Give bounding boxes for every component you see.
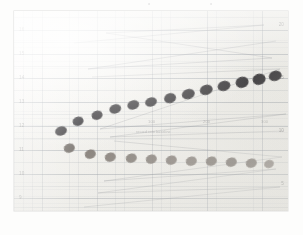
data-point [126, 99, 140, 111]
y-axis-left-tick: 10 [19, 171, 24, 176]
y-axis-left-tick: 14 [19, 75, 24, 80]
figure-canvas: o o 16 15 1 [0, 0, 303, 235]
gridline [14, 126, 288, 127]
data-point [263, 159, 275, 170]
data-point [104, 151, 117, 162]
gridline [14, 138, 288, 139]
gridline-vertical [152, 11, 153, 211]
x-axis-tick: 200 [203, 119, 210, 124]
data-point [84, 148, 97, 159]
y-axis-right-tick: 10 [279, 128, 284, 133]
y-axis-left-tick: 15 [19, 51, 24, 56]
gridline [14, 66, 288, 67]
data-point [144, 96, 158, 108]
y-axis-left-tick: 16 [19, 27, 24, 32]
gridline [14, 42, 288, 43]
data-point [199, 83, 214, 96]
y-axis-left-tick: 12 [19, 123, 24, 128]
gridline-vertical [42, 11, 43, 211]
data-point [165, 154, 178, 165]
data-point [90, 109, 103, 120]
graph-paper-sheet: 16 15 14 13 12 11 10 9 20 15 10 5 100 20… [14, 11, 288, 211]
gridline [14, 30, 288, 31]
top-mark-1: o [148, 1, 150, 6]
gridline [14, 90, 288, 91]
x-axis-tick: 300 [261, 119, 268, 124]
gridline [14, 207, 288, 208]
gridline [14, 54, 288, 55]
scan-shading-overlay [14, 11, 288, 211]
data-point [185, 155, 198, 166]
y-axis-right-tick: 20 [279, 22, 284, 27]
gridline [14, 17, 288, 18]
data-point [63, 142, 76, 153]
gridline [14, 150, 288, 151]
x-axis-tick: 100 [148, 119, 155, 124]
data-point [251, 72, 267, 86]
gridline [14, 198, 288, 199]
data-point [268, 69, 283, 82]
y-axis-right-tick: 5 [281, 181, 284, 186]
data-point [245, 157, 258, 168]
zigzag-trace-group [14, 11, 288, 211]
plot-annotation: record rate baseline [136, 130, 171, 134]
gridline-vertical [207, 11, 208, 211]
gridline [14, 114, 288, 115]
y-axis-left-tick: 13 [19, 99, 24, 104]
data-point [205, 155, 218, 166]
gridline-vertical [262, 11, 263, 211]
top-mark-2: o [210, 1, 212, 6]
data-point [225, 156, 238, 167]
gridline [14, 174, 288, 175]
minor-grid [14, 11, 288, 211]
y-axis-left-tick: 9 [19, 195, 22, 200]
zigzag-upper [74, 25, 276, 69]
y-axis-left-tick: 11 [19, 147, 24, 152]
gridline [14, 186, 288, 187]
